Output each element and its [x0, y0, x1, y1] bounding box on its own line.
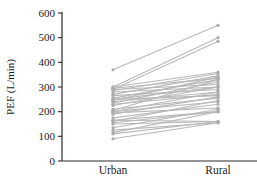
- pair-endpoint-marker: [216, 24, 219, 27]
- y-tick-label: 300: [39, 81, 56, 93]
- pair-endpoint-marker: [216, 40, 219, 43]
- x-category-label-rural: Rural: [205, 164, 231, 176]
- plot-series-layer: [111, 24, 219, 141]
- pair-endpoint-marker: [216, 110, 219, 113]
- pair-endpoint-marker: [216, 95, 219, 98]
- pair-endpoint-marker: [216, 90, 219, 93]
- pair-endpoint-marker: [216, 78, 219, 81]
- pair-endpoint-marker: [216, 36, 219, 39]
- pair-endpoint-marker: [216, 121, 219, 124]
- y-tick-label: 100: [39, 130, 56, 142]
- y-tick-label: 0: [50, 155, 56, 167]
- pef-paired-line-chart: 0100200300400500600UrbanRuralPEF (L/min): [0, 0, 257, 181]
- pair-endpoint-marker: [111, 132, 114, 135]
- pair-endpoint-marker: [111, 104, 114, 107]
- pair-endpoint-marker: [216, 103, 219, 106]
- pair-endpoint-marker: [111, 113, 114, 116]
- x-category-label-urban: Urban: [99, 164, 128, 176]
- pair-endpoint-marker: [216, 85, 219, 88]
- pair-endpoint-marker: [216, 99, 219, 102]
- pair-endpoint-marker: [111, 122, 114, 125]
- paired-line-chart-svg: 0100200300400500600UrbanRuralPEF (L/min): [0, 0, 257, 181]
- pair-endpoint-marker: [111, 68, 114, 71]
- y-tick-label: 200: [39, 105, 56, 117]
- y-tick-label: 500: [39, 31, 56, 43]
- y-tick-label: 600: [39, 7, 56, 19]
- y-axis-title: PEF (L/min): [4, 59, 17, 115]
- pair-line: [113, 25, 218, 69]
- pair-endpoint-marker: [111, 137, 114, 140]
- y-tick-label: 400: [39, 56, 56, 68]
